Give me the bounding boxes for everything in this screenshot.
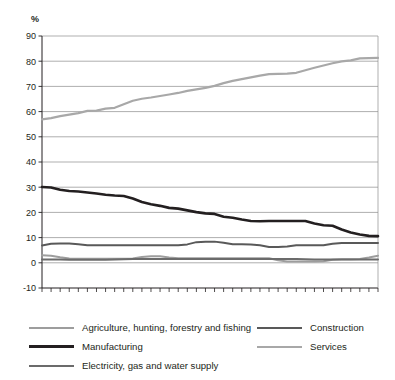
series-line xyxy=(42,187,378,236)
y-axis-tick-label: 10 xyxy=(26,233,36,243)
plot-area: 9080706050403020100-10197219741976197819… xyxy=(0,24,395,292)
legend-label: Services xyxy=(310,341,347,352)
legend-column-right: ConstructionServices xyxy=(257,318,392,356)
legend-item[interactable]: Construction xyxy=(257,318,392,337)
y-axis-tick-label: 60 xyxy=(26,107,36,117)
chart-legend: Agriculture, hunting, forestry and fishi… xyxy=(0,318,395,380)
legend-item[interactable]: Manufacturing xyxy=(29,337,259,356)
legend-item[interactable]: Agriculture, hunting, forestry and fishi… xyxy=(29,318,259,337)
legend-column-left: Agriculture, hunting, forestry and fishi… xyxy=(29,318,259,375)
legend-label: Manufacturing xyxy=(82,341,143,352)
y-axis-tick-label: -10 xyxy=(23,283,36,292)
line-chart-svg: 9080706050403020100-10197219741976197819… xyxy=(0,24,395,292)
y-axis-tick-label: 0 xyxy=(31,258,36,268)
series-line xyxy=(42,58,378,119)
y-axis-tick-label: 80 xyxy=(26,57,36,67)
y-axis-unit-label: % xyxy=(31,14,39,24)
series-line xyxy=(42,242,378,247)
legend-label: Electricity, gas and water supply xyxy=(82,360,218,371)
legend-swatch-icon xyxy=(29,327,74,329)
legend-swatch-icon xyxy=(29,365,74,367)
y-axis-tick-label: 70 xyxy=(26,82,36,92)
legend-label: Construction xyxy=(310,322,364,333)
y-axis-tick-label: 40 xyxy=(26,157,36,167)
chart-page: % 9080706050403020100-101972197419761978… xyxy=(0,0,395,380)
y-axis-tick-label: 20 xyxy=(26,208,36,218)
y-axis-tick-label: 50 xyxy=(26,132,36,142)
legend-swatch-icon xyxy=(257,327,302,329)
legend-label: Agriculture, hunting, forestry and fishi… xyxy=(82,322,251,333)
legend-item[interactable]: Services xyxy=(257,337,392,356)
series-line xyxy=(42,259,378,260)
legend-item[interactable]: Electricity, gas and water supply xyxy=(29,356,259,375)
legend-swatch-icon xyxy=(29,345,74,348)
legend-swatch-icon xyxy=(257,346,302,348)
y-axis-tick-label: 90 xyxy=(26,31,36,41)
y-axis-tick-label: 30 xyxy=(26,183,36,193)
